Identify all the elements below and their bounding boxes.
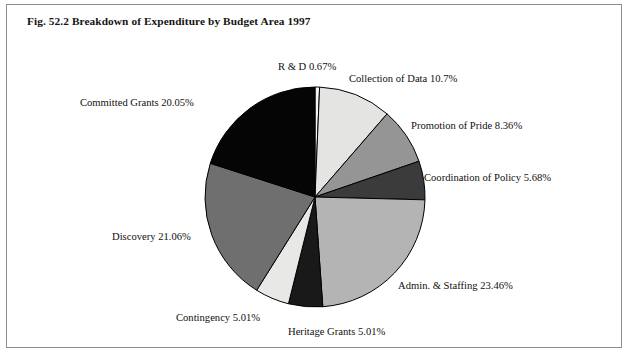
pie-slice-label: Heritage Grants 5.01%: [288, 327, 385, 338]
pie-slice-label: Admin. & Staffing 23.46%: [398, 281, 513, 292]
pie-slice-label: Promotion of Pride 8.36%: [411, 121, 522, 132]
pie-slice-label: Discovery 21.06%: [112, 232, 191, 243]
pie-slice-label: Coordination of Policy 5.68%: [424, 173, 551, 184]
pie-slice-label: Collection of Data 10.7%: [349, 74, 457, 85]
pie-chart: R & D 0.67%Collection of Data 10.7%Promo…: [0, 0, 630, 356]
pie-slice-label: R & D 0.67%: [278, 62, 336, 73]
pie-slice-label: Contingency 5.01%: [176, 313, 260, 324]
pie-slice-group: [205, 87, 425, 307]
pie-slice-label: Committed Grants 20.05%: [80, 98, 194, 109]
